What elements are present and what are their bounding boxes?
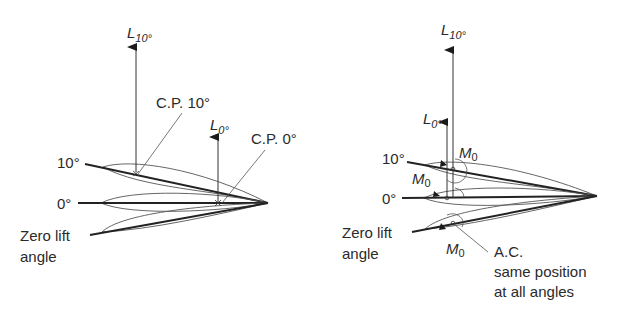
zero-lift-label-left-2: angle xyxy=(20,248,57,265)
airfoil-10deg-left xyxy=(85,164,268,203)
moment-label-0deg: M0 xyxy=(412,170,431,189)
zero-lift-label-right-1: Zero lift xyxy=(342,224,393,241)
right-panel: L10° L0° M0 M0 M0 10° 0° Zero lift angle… xyxy=(342,21,597,300)
cp-10-leader xyxy=(138,113,182,174)
ac-label-1: A.C. xyxy=(494,243,523,260)
angle-0-label-left: 0° xyxy=(57,195,71,212)
airfoil-10deg-right xyxy=(407,162,597,196)
lift-0-label-left: L0° xyxy=(210,116,229,136)
airfoil-zero-lift-right xyxy=(412,196,597,232)
moment-label-zero-lift: M0 xyxy=(446,240,465,259)
left-panel: L10° L0° C.P. 10° C.P. 0° 10° 0° Zero li… xyxy=(20,24,297,265)
ac-label-2: same position xyxy=(494,263,587,280)
cp-0-leader xyxy=(222,150,265,203)
angle-10-label-left: 10° xyxy=(57,154,80,171)
ac-label-3: at all angles xyxy=(494,283,574,300)
airfoil-diagram: L10° L0° C.P. 10° C.P. 0° 10° 0° Zero li… xyxy=(0,0,621,316)
angle-10-label-right: 10° xyxy=(382,150,405,167)
zero-lift-label-left-1: Zero lift xyxy=(20,227,71,244)
cp-10-label: C.P. 10° xyxy=(156,94,210,111)
lift-10-label-left: L10° xyxy=(127,24,153,44)
zero-lift-label-right-2: angle xyxy=(342,245,379,262)
cp-0-label: C.P. 0° xyxy=(251,130,297,147)
lift-10-label-right: L10° xyxy=(441,21,467,41)
moment-label-10deg: M0 xyxy=(459,144,478,163)
lift-0-label-right: L0° xyxy=(423,110,442,130)
angle-0-label-right: 0° xyxy=(382,190,396,207)
